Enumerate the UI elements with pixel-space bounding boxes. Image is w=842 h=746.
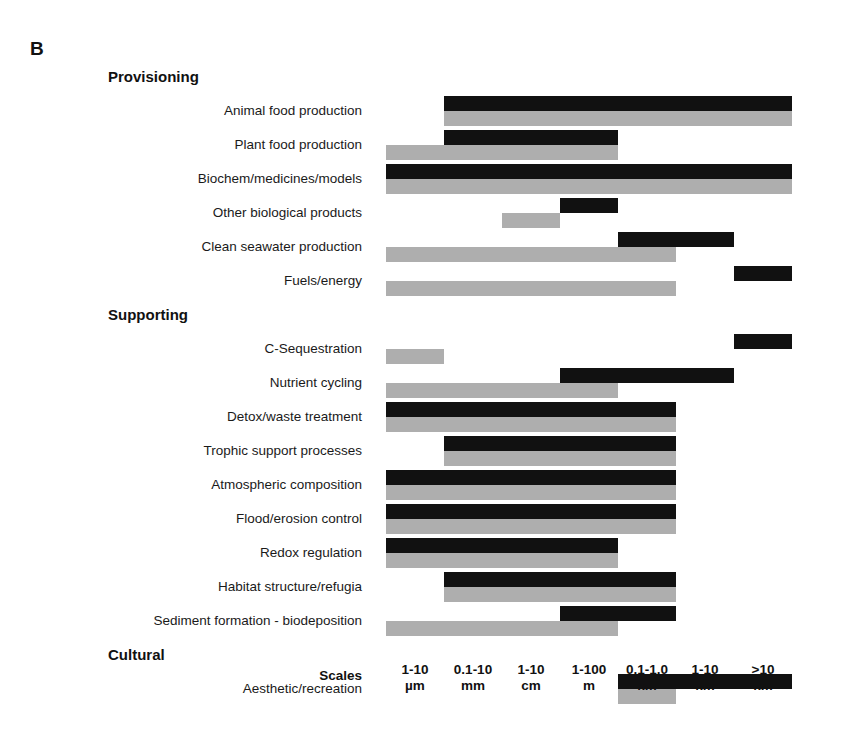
service-row-bars [386, 230, 792, 264]
range-bar-black [734, 266, 792, 281]
range-bar-black [734, 334, 792, 349]
service-row-bars [386, 366, 792, 400]
service-row-label: Plant food production [0, 128, 362, 162]
service-row-label: Habitat structure/refugia [0, 570, 362, 604]
range-bar-black [444, 436, 676, 451]
service-row-label: Fuels/energy [0, 264, 362, 298]
range-bar-black [386, 164, 792, 179]
range-bar-black [386, 402, 676, 417]
axis-tick-range: 1-10 [502, 662, 560, 678]
service-row-bars [386, 502, 792, 536]
axis-tick-unit: µm [386, 678, 444, 694]
axis-tick-unit: km [676, 678, 734, 694]
range-bar-black [444, 96, 792, 111]
range-bar-black [560, 198, 618, 213]
axis-tick-1: 1-10µm [386, 662, 444, 694]
service-row: Other biological products [0, 196, 842, 230]
service-row: Trophic support processes [0, 434, 842, 468]
range-bar-gray [386, 553, 618, 568]
service-row-label: Biochem/medicines/models [0, 162, 362, 196]
service-row: C-Sequestration [0, 332, 842, 366]
range-bar-gray [386, 247, 676, 262]
service-row-bars [386, 434, 792, 468]
service-row-bars [386, 94, 792, 128]
range-bar-gray [502, 213, 560, 228]
service-row-bars [386, 264, 792, 298]
axis-title: Scales [222, 668, 362, 683]
service-row: Fuels/energy [0, 264, 842, 298]
axis-tick-range: 1-100 [560, 662, 618, 678]
service-row: Redox regulation [0, 536, 842, 570]
service-row-label: Flood/erosion control [0, 502, 362, 536]
range-bar-gray [386, 519, 676, 534]
service-row-label: Trophic support processes [0, 434, 362, 468]
range-bar-black [444, 572, 676, 587]
panel-letter: B [30, 38, 44, 60]
axis-tick-range: 1-10 [386, 662, 444, 678]
service-row-label: Redox regulation [0, 536, 362, 570]
range-bar-gray [444, 587, 676, 602]
axis-tick-5: 0.1-1.0km [618, 662, 676, 694]
figure-panel-b: B ProvisioningAnimal food productionPlan… [0, 0, 842, 746]
service-row-bars [386, 332, 792, 366]
group-heading-label: Provisioning [108, 60, 199, 94]
service-row-label: Detox/waste treatment [0, 400, 362, 434]
range-bar-gray [386, 281, 676, 296]
axis-tick-unit: km [618, 678, 676, 694]
service-row: Atmospheric composition [0, 468, 842, 502]
axis-tick-unit: m [560, 678, 618, 694]
service-row-label: C-Sequestration [0, 332, 362, 366]
axis-tick-6: 1-10km [676, 662, 734, 694]
service-row: Clean seawater production [0, 230, 842, 264]
group-heading-row: Provisioning [0, 60, 842, 94]
axis-tick-2: 0.1-10mm [444, 662, 502, 694]
range-bar-gray [386, 383, 618, 398]
axis-tick-range: 1-10 [676, 662, 734, 678]
range-bar-gray [386, 417, 676, 432]
service-row: Biochem/medicines/models [0, 162, 842, 196]
range-bar-gray [444, 451, 676, 466]
service-row: Sediment formation - biodeposition [0, 604, 842, 638]
range-bar-gray [386, 349, 444, 364]
axis-tick-unit: mm [444, 678, 502, 694]
axis-tick-7: >10km [734, 662, 792, 694]
service-row: Habitat structure/refugia [0, 570, 842, 604]
range-bar-black [386, 538, 618, 553]
service-row-label: Animal food production [0, 94, 362, 128]
service-row-label: Nutrient cycling [0, 366, 362, 400]
group-heading-label: Supporting [108, 298, 188, 332]
service-row-label: Atmospheric composition [0, 468, 362, 502]
service-row-label: Sediment formation - biodeposition [0, 604, 362, 638]
axis-tick-range: >10 [734, 662, 792, 678]
range-bar-gray [386, 179, 792, 194]
service-row: Plant food production [0, 128, 842, 162]
service-row-bars [386, 196, 792, 230]
range-bar-gray [444, 111, 792, 126]
axis-tick-range: 0.1-1.0 [618, 662, 676, 678]
service-row: Flood/erosion control [0, 502, 842, 536]
range-bar-black [386, 470, 676, 485]
axis-tick-range: 0.1-10 [444, 662, 502, 678]
service-row: Detox/waste treatment [0, 400, 842, 434]
range-bar-gray [386, 145, 618, 160]
axis-tick-4: 1-100m [560, 662, 618, 694]
service-row-bars [386, 128, 792, 162]
service-row-bars [386, 604, 792, 638]
range-bar-black [560, 368, 734, 383]
service-row: Animal food production [0, 94, 842, 128]
scales-axis: Scales 1-10µm0.1-10mm1-10cm1-100m0.1-1.0… [0, 660, 842, 716]
range-bar-black [386, 504, 676, 519]
axis-tick-unit: cm [502, 678, 560, 694]
axis-tick-unit: km [734, 678, 792, 694]
service-row-bars [386, 400, 792, 434]
service-row-bars [386, 536, 792, 570]
group-heading-row: Supporting [0, 298, 842, 332]
axis-tick-3: 1-10cm [502, 662, 560, 694]
range-bar-gray [386, 621, 618, 636]
range-bar-black [560, 606, 676, 621]
service-row: Nutrient cycling [0, 366, 842, 400]
service-row-bars [386, 468, 792, 502]
range-bar-black [444, 130, 618, 145]
service-row-label: Clean seawater production [0, 230, 362, 264]
range-bar-gray [386, 485, 676, 500]
